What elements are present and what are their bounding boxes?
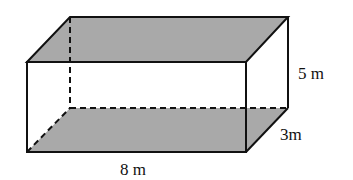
bottom-face <box>27 108 288 152</box>
depth-label: 3m <box>280 125 302 144</box>
top-face <box>27 17 288 62</box>
length-label: 8 m <box>120 160 146 179</box>
rectangular-prism-diagram: 5 m 3m 8 m <box>0 0 353 180</box>
height-label: 5 m <box>298 64 324 83</box>
